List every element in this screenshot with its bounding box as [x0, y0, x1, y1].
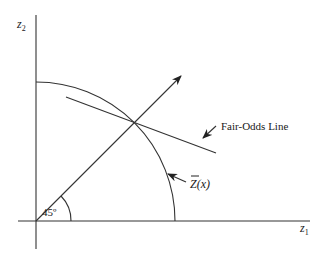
angle-label: 45º — [42, 206, 57, 218]
z-bar-pointer-arrow — [168, 174, 186, 182]
z-bar-label: Z(x) — [190, 177, 210, 191]
x-axis-label: z1 — [299, 221, 309, 237]
fair-odds-label: Fair-Odds Line — [221, 120, 288, 132]
y-axis-label: z2 — [16, 17, 26, 33]
fair-odds-pointer-arrow — [203, 126, 216, 138]
angle-arc — [61, 196, 71, 221]
fair-odds-line — [66, 97, 216, 153]
diagram: z2 z1 45º Fair-Odds Line Z(x) — [0, 0, 326, 257]
forty-five-degree-ray — [36, 76, 181, 221]
